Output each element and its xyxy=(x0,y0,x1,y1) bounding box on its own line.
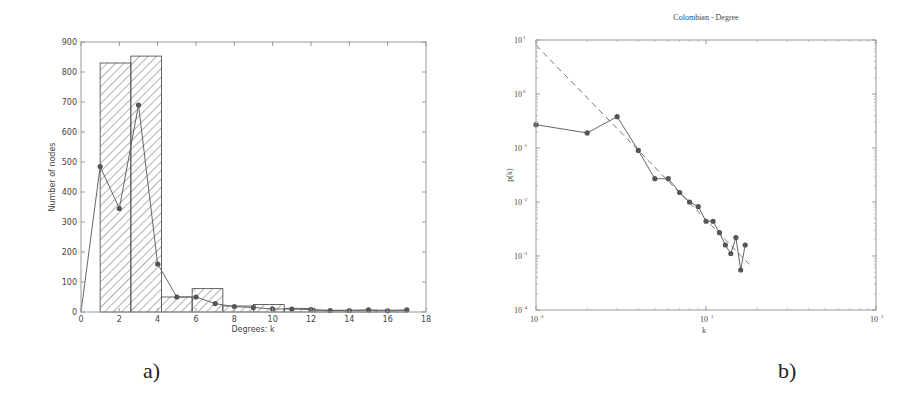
data-point xyxy=(710,219,715,224)
data-point xyxy=(117,206,122,211)
chart-a-histogram: 0100200300400500600700800900 02468101214… xyxy=(48,38,431,334)
data-point xyxy=(289,306,294,311)
svg-text:2: 2 xyxy=(117,315,122,324)
data-point xyxy=(723,242,728,247)
panel-label-b: b) xyxy=(778,358,796,384)
svg-text:10: 10 xyxy=(514,198,522,207)
svg-text:1: 1 xyxy=(523,35,526,40)
data-point xyxy=(652,176,657,181)
svg-text:-2: -2 xyxy=(523,197,528,202)
data-point xyxy=(193,294,198,299)
svg-text:800: 800 xyxy=(62,68,77,77)
plot-frame-b xyxy=(536,40,876,310)
svg-text:2: 2 xyxy=(881,314,884,319)
histogram-bar xyxy=(131,56,162,312)
data-point xyxy=(136,102,141,107)
svg-text:0: 0 xyxy=(523,89,526,94)
svg-text:10: 10 xyxy=(514,36,522,45)
data-point xyxy=(696,204,701,209)
svg-text:0: 0 xyxy=(72,308,77,317)
panel-label-a: a) xyxy=(143,358,160,384)
data-point xyxy=(743,242,748,247)
x-axis-label-b: k xyxy=(702,326,706,335)
svg-text:10: 10 xyxy=(268,315,278,324)
svg-text:300: 300 xyxy=(62,218,77,227)
pk-series-line xyxy=(533,114,747,273)
data-point xyxy=(703,219,708,224)
x-axis-label-a: Degrees: k xyxy=(231,325,275,334)
chart-title-b: Colombian - Degree xyxy=(673,13,739,22)
histogram-bars xyxy=(100,56,407,312)
svg-text:18: 18 xyxy=(421,315,431,324)
svg-text:400: 400 xyxy=(62,188,77,197)
svg-text:4: 4 xyxy=(155,315,160,324)
svg-text:10: 10 xyxy=(514,306,522,315)
svg-text:6: 6 xyxy=(193,315,198,324)
svg-text:10: 10 xyxy=(870,315,878,324)
data-point xyxy=(717,230,722,235)
data-point xyxy=(677,190,682,195)
svg-text:16: 16 xyxy=(383,315,393,324)
data-point xyxy=(738,267,743,272)
svg-text:500: 500 xyxy=(62,158,77,167)
figure-canvas: 0100200300400500600700800900 02468101214… xyxy=(0,0,922,408)
svg-text:600: 600 xyxy=(62,128,77,137)
svg-text:-3: -3 xyxy=(523,251,528,256)
svg-text:-4: -4 xyxy=(523,305,528,310)
svg-text:0: 0 xyxy=(78,315,83,324)
svg-text:200: 200 xyxy=(62,248,77,257)
svg-text:10: 10 xyxy=(514,252,522,261)
chart-b-loglog: Colombian - Degree 10110010-110-210-310-… xyxy=(505,13,884,335)
svg-text:8: 8 xyxy=(232,315,237,324)
data-point xyxy=(98,164,103,169)
svg-text:12: 12 xyxy=(306,315,316,324)
data-point xyxy=(733,235,738,240)
data-point xyxy=(666,176,671,181)
svg-text:10: 10 xyxy=(530,315,538,324)
svg-text:-1: -1 xyxy=(523,143,528,148)
data-point xyxy=(155,261,160,266)
svg-text:10: 10 xyxy=(514,90,522,99)
x-axis-ticks-b: 100101102 xyxy=(530,40,884,324)
svg-text:1: 1 xyxy=(711,314,714,319)
data-point xyxy=(213,301,218,306)
data-point xyxy=(636,148,641,153)
histogram-bar xyxy=(192,289,223,312)
data-point xyxy=(687,199,692,204)
svg-text:10: 10 xyxy=(700,315,708,324)
data-point xyxy=(728,251,733,256)
y-axis-label-a: Number of nodes xyxy=(48,142,57,211)
data-point xyxy=(585,130,590,135)
svg-text:100: 100 xyxy=(62,278,77,287)
svg-text:0: 0 xyxy=(541,314,544,319)
svg-text:10: 10 xyxy=(514,144,522,153)
histogram-bar xyxy=(100,63,131,312)
y-axis-ticks-b: 10110010-110-210-310-4 xyxy=(514,35,876,315)
data-point xyxy=(251,305,256,310)
data-point xyxy=(615,114,620,119)
svg-text:14: 14 xyxy=(344,315,354,324)
y-axis-label-b: p(k) xyxy=(505,168,514,182)
svg-text:700: 700 xyxy=(62,98,77,107)
data-point xyxy=(174,294,179,299)
svg-text:900: 900 xyxy=(62,38,77,47)
